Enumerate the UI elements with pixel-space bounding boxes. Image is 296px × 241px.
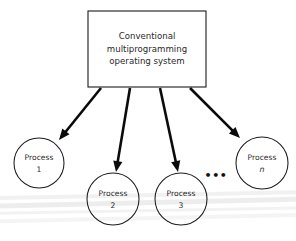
- process-n-circle: [236, 137, 288, 189]
- arrow-to-process-1-line: [65, 88, 101, 133]
- arrow-to-process-2-line: [117, 88, 130, 163]
- arrow-to-process-3: [160, 88, 180, 172]
- process-1-circle: [14, 138, 64, 188]
- process-1-label-line2: 1: [37, 165, 42, 174]
- process-1-label-line1: Process: [25, 153, 54, 162]
- arrow-to-process-n: [190, 88, 240, 138]
- os-box-node: Conventional multiprogramming operating …: [88, 11, 206, 87]
- os-box-label-line3: operating system: [109, 56, 184, 66]
- arrow-to-process-1: [59, 88, 101, 140]
- process-3-label-line2: 3: [179, 201, 184, 210]
- ellipsis-indicator: •••: [205, 169, 228, 182]
- arrow-to-process-2-head: [113, 160, 122, 172]
- arrow-to-process-n-line: [190, 88, 234, 132]
- diagram-canvas: Conventional multiprogramming operating …: [0, 0, 296, 241]
- process-2-label-line1: Process: [99, 189, 128, 198]
- process-1-node: Process1: [14, 138, 64, 188]
- arrow-to-process-3-head: [171, 160, 180, 172]
- process-node-group: Process1Process2Process3Processn: [14, 137, 288, 225]
- process-n-label-line2: n: [259, 165, 264, 174]
- arrow-group: [59, 88, 240, 172]
- process-n-label-line1: Process: [248, 153, 277, 162]
- process-2-label-line2: 2: [111, 201, 116, 210]
- os-box-label-line2: multiprogramming: [107, 44, 187, 54]
- process-n-node: Processn: [236, 137, 288, 189]
- process-3-circle: [155, 173, 207, 225]
- process-3-node: Process3: [155, 173, 207, 225]
- process-2-node: Process2: [87, 173, 139, 225]
- process-3-label-line1: Process: [167, 189, 196, 198]
- process-2-circle: [87, 173, 139, 225]
- diagram-svg: Conventional multiprogramming operating …: [0, 0, 296, 241]
- os-box-label-line1: Conventional: [119, 31, 176, 41]
- arrow-to-process-3-line: [160, 88, 176, 163]
- arrow-to-process-2: [113, 88, 130, 172]
